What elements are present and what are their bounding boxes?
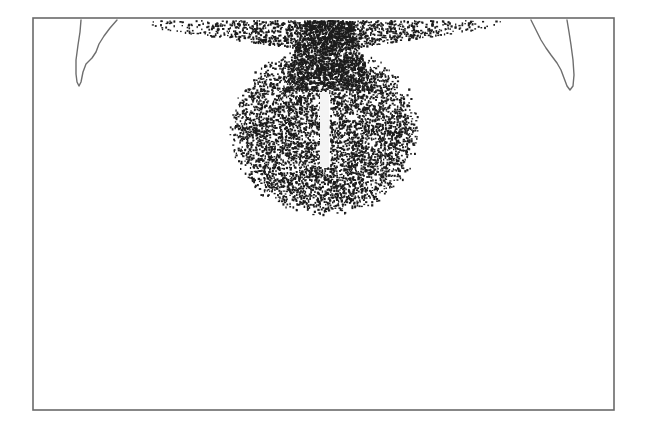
particle-simulation-figure [0,0,649,433]
central-slot [320,92,329,167]
figure-background [0,0,649,433]
